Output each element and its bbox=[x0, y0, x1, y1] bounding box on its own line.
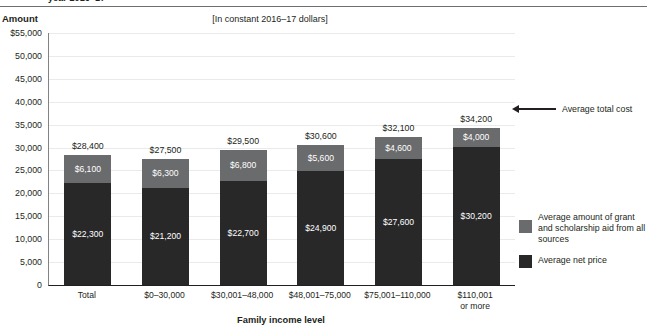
x-axis-tick-label: $75,001–110,000 bbox=[359, 290, 437, 301]
gridline bbox=[49, 79, 515, 80]
bar-total-label: $28,400 bbox=[72, 141, 104, 151]
gridline bbox=[49, 56, 515, 57]
y-axis-tick-label: 30,000 bbox=[15, 143, 42, 153]
legend-item[interactable]: Average net price bbox=[519, 255, 647, 268]
y-axis-tick-label: $55,000 bbox=[10, 28, 42, 38]
bar-segment-net-price[interactable]: $30,200 bbox=[453, 147, 500, 285]
bar-segment-grant-aid[interactable]: $6,800 bbox=[220, 150, 267, 181]
clipped-chart-title: year 2016–17 bbox=[48, 0, 105, 3]
gridline bbox=[49, 262, 515, 263]
x-axis-tick-line: Total bbox=[48, 290, 126, 301]
x-axis-tick-line: or more bbox=[436, 301, 514, 312]
y-axis-tick-label: 10,000 bbox=[15, 234, 42, 244]
bar-segment-grant-aid[interactable]: $6,100 bbox=[64, 155, 111, 183]
x-axis-tick-label: $110,001or more bbox=[436, 290, 514, 311]
x-axis-tick-line: $75,001–110,000 bbox=[359, 290, 437, 301]
bar-segment-grant-aid[interactable]: $4,000 bbox=[453, 128, 500, 146]
y-axis-tick-label: 35,000 bbox=[15, 120, 42, 130]
legend-item-label: Average amount of grant and scholarship … bbox=[538, 212, 647, 245]
bar-segment-net-price[interactable]: $21,200 bbox=[142, 188, 189, 285]
x-axis-tick-line: $110,001 bbox=[436, 290, 514, 301]
x-axis-tick-line: $0–30,000 bbox=[126, 290, 204, 301]
bar-segment-net-price[interactable]: $27,600 bbox=[375, 159, 422, 285]
y-axis-tick-label: 25,000 bbox=[15, 165, 42, 175]
bar-group[interactable]: $4,000$30,200$34,200 bbox=[453, 128, 500, 285]
bar-segment-grant-aid[interactable]: $4,600 bbox=[375, 137, 422, 158]
bar-total-label: $30,600 bbox=[305, 131, 337, 141]
y-axis-tick-labels: $55,00050,00045,00040,00035,00030,00025,… bbox=[0, 33, 45, 285]
bar-segment-grant-aid[interactable]: $6,300 bbox=[142, 159, 189, 188]
bar-segment-net-price[interactable]: $22,300 bbox=[64, 183, 111, 285]
gridline bbox=[49, 102, 515, 103]
chart-subtitle: [In constant 2016–17 dollars] bbox=[0, 14, 540, 24]
bar-group[interactable]: $4,600$27,600$32,100 bbox=[375, 137, 422, 285]
legend-swatch-grant bbox=[519, 220, 532, 233]
gridline bbox=[49, 193, 515, 194]
x-axis-tick-label: $30,001–48,000 bbox=[203, 290, 281, 301]
bar-group[interactable]: $6,100$22,300$28,400 bbox=[64, 155, 111, 285]
bar-segment-net-price[interactable]: $24,900 bbox=[297, 171, 344, 285]
plot-area: $6,100$22,300$28,400$6,300$21,200$27,500… bbox=[48, 33, 515, 286]
bar-group[interactable]: $6,800$22,700$29,500 bbox=[220, 150, 267, 285]
x-axis-tick-label: $48,001–75,000 bbox=[281, 290, 359, 301]
bar-total-label: $32,100 bbox=[383, 123, 415, 133]
y-axis-tick-label: 45,000 bbox=[15, 74, 42, 84]
x-axis-title: Family income level bbox=[48, 315, 514, 325]
gridline bbox=[49, 125, 515, 126]
x-axis-tick-label: Total bbox=[48, 290, 126, 301]
x-axis-tick-label: $0–30,000 bbox=[126, 290, 204, 301]
legend-swatch-net-price bbox=[519, 255, 532, 268]
y-axis-tick-label: 0 bbox=[37, 280, 42, 290]
bar-segment-grant-aid[interactable]: $5,600 bbox=[297, 145, 344, 171]
annotation-label: Average total cost bbox=[562, 104, 632, 114]
chart-legend: Average amount of grant and scholarship … bbox=[519, 212, 647, 278]
gridline bbox=[49, 239, 515, 240]
y-axis-tick-label: 40,000 bbox=[15, 97, 42, 107]
bar-total-label: $29,500 bbox=[227, 136, 259, 146]
bar-total-label: $34,200 bbox=[460, 114, 492, 124]
y-axis-tick-label: 5,000 bbox=[20, 257, 42, 267]
average-total-cost-annotation: Average total cost bbox=[512, 104, 632, 114]
legend-item-label: Average net price bbox=[538, 255, 607, 266]
title-rule bbox=[0, 6, 647, 7]
bar-group[interactable]: $6,300$21,200$27,500 bbox=[142, 159, 189, 285]
legend-item[interactable]: Average amount of grant and scholarship … bbox=[519, 212, 647, 245]
gridline bbox=[49, 148, 515, 149]
gridline bbox=[49, 216, 515, 217]
annotation-leader-line bbox=[518, 108, 556, 109]
y-axis-tick-label: 50,000 bbox=[15, 51, 42, 61]
bar-total-label: $27,500 bbox=[150, 145, 182, 155]
y-axis-tick-label: 15,000 bbox=[15, 211, 42, 221]
bar-group[interactable]: $5,600$24,900$30,600 bbox=[297, 145, 344, 285]
gridline bbox=[49, 170, 515, 171]
x-axis-tick-line: $48,001–75,000 bbox=[281, 290, 359, 301]
gridline bbox=[49, 33, 515, 34]
bar-segment-net-price[interactable]: $22,700 bbox=[220, 181, 267, 285]
x-axis-tick-line: $30,001–48,000 bbox=[203, 290, 281, 301]
y-axis-tick-label: 20,000 bbox=[15, 188, 42, 198]
